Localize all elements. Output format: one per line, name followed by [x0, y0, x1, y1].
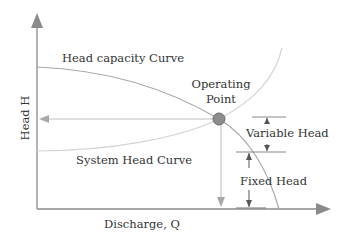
operating-point-marker	[213, 113, 225, 125]
fixed-head-label: Fixed Head	[240, 174, 308, 188]
fixed-head-up-arrow-icon	[246, 153, 252, 160]
fixed-head-down-arrow-icon	[246, 200, 252, 207]
variable-head-label: Variable Head	[245, 126, 329, 140]
discharge-projection-arrowhead-icon	[217, 197, 225, 207]
operating-point-label-line2: Point	[206, 92, 236, 106]
head-capacity-curve-label: Head capacity Curve	[62, 51, 184, 65]
y-axis-arrow-icon	[31, 13, 43, 28]
y-axis-label: Head H	[18, 96, 32, 141]
x-axis	[37, 203, 331, 215]
x-axis-arrow-icon	[316, 203, 331, 215]
head-projection-arrowhead-icon	[39, 115, 49, 123]
y-axis	[31, 13, 43, 209]
pump-curve-diagram: Head capacity Curve System Head Curve Op…	[0, 0, 349, 236]
variable-head-down-arrow-icon	[264, 145, 270, 151]
x-axis-label: Discharge, Q	[104, 217, 180, 231]
operating-point-label-line1: Operating	[191, 77, 251, 91]
variable-head-up-arrow-icon	[264, 118, 270, 124]
system-head-curve-label: System Head Curve	[76, 153, 192, 167]
